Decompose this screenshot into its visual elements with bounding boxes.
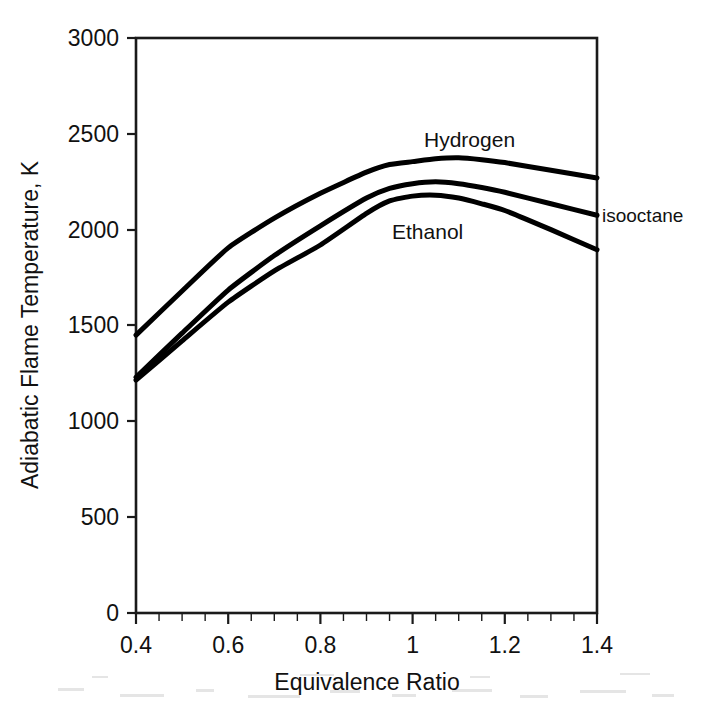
y-tick-label: 0 — [106, 600, 119, 626]
series-label-hydrogen: Hydrogen — [424, 128, 515, 151]
series-label-ethanol: Ethanol — [392, 220, 463, 243]
x-tick-label: 0.8 — [304, 632, 336, 658]
chart-figure: 3000 2500 2000 1500 1000 500 0 — [0, 0, 718, 717]
x-axis-title: Equivalence Ratio — [274, 669, 459, 695]
y-axis-title: Adiabatic Flame Temperature, K — [17, 160, 43, 489]
chart-svg: 3000 2500 2000 1500 1000 500 0 — [0, 0, 718, 717]
y-tick-label: 500 — [81, 504, 119, 530]
y-tick-label: 2500 — [68, 121, 119, 147]
y-tick-label: 1500 — [68, 312, 119, 338]
series-label-isooctane: isooctane — [602, 205, 683, 226]
x-tick-label: 1.2 — [489, 632, 521, 658]
y-tick-label: 2000 — [68, 217, 119, 243]
x-tick-label: 0.4 — [120, 632, 152, 658]
x-tick-label: 1 — [406, 632, 419, 658]
y-tick-label: 1000 — [68, 408, 119, 434]
y-tick-label: 3000 — [68, 25, 119, 51]
x-tick-label: 1.4 — [581, 632, 613, 658]
x-tick-label: 0.6 — [212, 632, 244, 658]
